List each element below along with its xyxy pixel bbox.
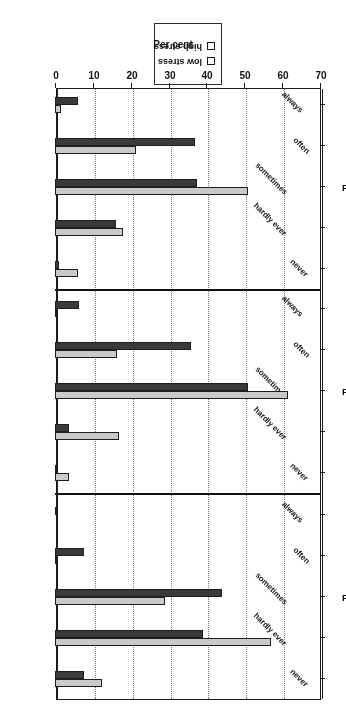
- bar-high-stress-hardly-ever: [55, 630, 203, 638]
- x-tick-label-0: 0: [43, 70, 69, 81]
- x-tick-label-70: 70: [308, 70, 334, 81]
- bar-high-stress-sometimes: [55, 179, 197, 187]
- category-label-never: never: [288, 461, 309, 482]
- bar-high-stress-hardly-ever: [55, 424, 69, 432]
- category-tick: [320, 186, 325, 187]
- category-tick: [320, 390, 325, 391]
- x-tick-10: [93, 83, 94, 88]
- x-tick-40: [206, 83, 207, 88]
- category-tick: [320, 678, 325, 679]
- category-label-often: often: [291, 136, 311, 156]
- x-axis-title: Per cent: [0, 39, 346, 50]
- bar-high-stress-always: [55, 301, 79, 309]
- plot-area: Feels angryneverhardly eversometimesofte…: [56, 88, 321, 700]
- legend-swatch-low-stress: [207, 58, 215, 66]
- category-label-sometimes: sometimes: [253, 161, 289, 197]
- x-tick-30: [169, 83, 170, 88]
- chart-figure: low stress high stress Feels angryneverh…: [0, 0, 346, 726]
- category-tick: [320, 431, 325, 432]
- panel-feels-angry: Feels angryneverhardly eversometimesofte…: [55, 495, 320, 699]
- bar-high-stress-often: [55, 342, 191, 350]
- bar-low-stress-sometimes: [55, 391, 288, 399]
- x-tick-20: [131, 83, 132, 88]
- bar-low-stress-sometimes: [55, 187, 248, 195]
- category-label-never: never: [288, 667, 309, 688]
- category-label-always: always: [280, 294, 305, 319]
- bar-low-stress-hardly-ever: [55, 228, 123, 236]
- category-tick: [320, 472, 325, 473]
- bar-high-stress-sometimes: [55, 589, 222, 597]
- category-label-often: often: [291, 546, 311, 566]
- bar-low-stress-never: [55, 679, 102, 687]
- bar-low-stress-always: [55, 105, 61, 113]
- bar-low-stress-hardly-ever: [55, 432, 119, 440]
- category-tick: [320, 145, 325, 146]
- x-tick-label-30: 30: [157, 70, 183, 81]
- bar-low-stress-never: [55, 473, 69, 481]
- bar-low-stress-often: [55, 146, 136, 154]
- category-tick: [320, 349, 325, 350]
- bar-low-stress-never: [55, 269, 78, 277]
- bar-low-stress-often: [55, 350, 117, 358]
- x-tick-0: [55, 83, 56, 88]
- bar-high-stress-often: [55, 548, 84, 556]
- x-tick-60: [282, 83, 283, 88]
- x-tick-50: [244, 83, 245, 88]
- category-tick: [320, 104, 325, 105]
- x-tick-label-60: 60: [270, 70, 296, 81]
- category-tick: [320, 268, 325, 269]
- bar-high-stress-never: [55, 671, 84, 679]
- bar-high-stress-often: [55, 138, 195, 146]
- category-label-sometimes: sometimes: [253, 571, 289, 607]
- panel-feels-drained: Feels drainedneverhardly eversometimesof…: [55, 291, 320, 495]
- bar-low-stress-sometimes: [55, 597, 165, 605]
- legend-item-low-stress: low stress: [161, 57, 215, 66]
- x-tick-label-10: 10: [81, 70, 107, 81]
- bar-high-stress-always: [55, 507, 57, 515]
- bar-high-stress-never: [55, 465, 57, 473]
- category-label-hardly-ever: hardly ever: [252, 405, 289, 442]
- category-label-always: always: [280, 90, 305, 115]
- category-label-always: always: [280, 500, 305, 525]
- bar-low-stress-often: [55, 556, 57, 564]
- category-tick: [320, 308, 325, 309]
- category-tick: [320, 637, 325, 638]
- x-tick-label-50: 50: [232, 70, 258, 81]
- bar-high-stress-hardly-ever: [55, 220, 116, 228]
- bar-high-stress-never: [55, 261, 59, 269]
- category-tick: [320, 514, 325, 515]
- panel-feels-exhausted: Feels exhaustedneverhardly eversometimes…: [55, 87, 320, 291]
- bar-low-stress-always: [55, 309, 57, 317]
- category-tick: [320, 596, 325, 597]
- x-tick-label-40: 40: [194, 70, 220, 81]
- x-tick-label-20: 20: [119, 70, 145, 81]
- category-tick: [320, 227, 325, 228]
- category-label-often: often: [291, 340, 311, 360]
- category-label-never: never: [288, 257, 309, 278]
- bar-high-stress-always: [55, 97, 78, 105]
- x-tick-70: [320, 83, 321, 88]
- category-label-hardly-ever: hardly ever: [252, 201, 289, 238]
- legend-label-low-stress: low stress: [158, 57, 202, 66]
- gridline-70: [322, 89, 323, 699]
- bar-high-stress-sometimes: [55, 383, 248, 391]
- category-tick: [320, 555, 325, 556]
- bar-low-stress-hardly-ever: [55, 638, 271, 646]
- rotated-figure-container: low stress high stress Feels angryneverh…: [0, 0, 346, 726]
